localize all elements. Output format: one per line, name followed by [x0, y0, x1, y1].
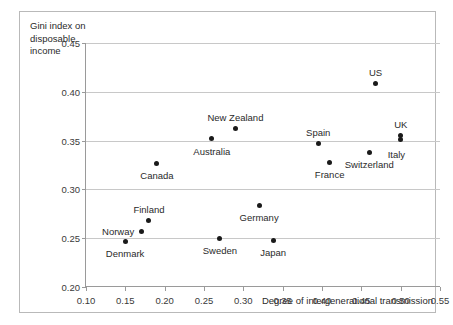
y-tick-label: 0.40: [62, 86, 81, 97]
data-point-label: Canada: [140, 171, 173, 181]
data-point: [233, 126, 238, 131]
x-axis-line: [85, 286, 440, 287]
y-tick-mark: [82, 189, 86, 190]
data-point: [154, 161, 159, 166]
y-tick-mark: [82, 238, 86, 239]
x-tick-label: 0.30: [234, 295, 253, 306]
x-tick-mark: [125, 287, 126, 291]
data-point: [373, 81, 378, 86]
data-point: [217, 236, 222, 241]
x-tick-label: 0.45: [352, 295, 371, 306]
x-tick-label: 0.35: [273, 295, 292, 306]
x-tick-label: 0.20: [155, 295, 174, 306]
data-point-label: Finland: [133, 205, 164, 215]
y-tick-label: 0.30: [62, 184, 81, 195]
x-tick-label: 0.50: [391, 295, 410, 306]
data-point: [316, 141, 321, 146]
gridline-horizontal: [86, 189, 440, 190]
data-point-label: France: [315, 170, 345, 180]
y-tick-mark: [82, 43, 86, 44]
x-tick-label: 0.15: [116, 295, 135, 306]
y-axis-line: [85, 43, 86, 287]
data-point-label: Australia: [193, 147, 230, 157]
x-tick-label: 0.40: [313, 295, 332, 306]
gridline-horizontal: [86, 238, 440, 239]
data-point-label: Denmark: [106, 249, 145, 259]
data-point-label: US: [369, 68, 382, 78]
x-tick-mark: [440, 287, 441, 291]
gridline-horizontal: [86, 92, 440, 93]
data-point-label: Germany: [240, 213, 279, 223]
figure-border: Gini index on disposable income Degree o…: [19, 11, 436, 313]
gridline-horizontal: [86, 141, 440, 142]
y-tick-label: 0.45: [62, 38, 81, 49]
y-tick-label: 0.20: [62, 282, 81, 293]
x-tick-mark: [86, 287, 87, 291]
x-tick-label: 0.25: [195, 295, 214, 306]
data-point: [146, 218, 151, 223]
data-point: [367, 150, 372, 155]
data-point-label: Italy: [388, 150, 405, 160]
x-tick-mark: [204, 287, 205, 291]
data-point: [271, 238, 276, 243]
scatter-plot-figure: Gini index on disposable income Degree o…: [0, 0, 453, 325]
data-point: [257, 203, 262, 208]
y-tick-label: 0.25: [62, 233, 81, 244]
data-point: [327, 160, 332, 165]
data-point: [139, 229, 144, 234]
data-point: [123, 239, 128, 244]
data-point-label: Switzerland: [345, 160, 394, 170]
plot-area: 0.200.250.300.350.400.45 0.100.150.200.2…: [86, 43, 440, 287]
x-tick-mark: [243, 287, 244, 291]
x-tick-label: 0.55: [431, 295, 450, 306]
gridline-horizontal: [86, 43, 440, 44]
x-tick-mark: [401, 287, 402, 291]
x-tick-mark: [283, 287, 284, 291]
data-point-label: Japan: [260, 248, 286, 258]
x-tick-mark: [361, 287, 362, 291]
x-tick-label: 0.10: [77, 295, 96, 306]
data-point-label: Norway: [102, 227, 134, 237]
data-point-label: UK: [394, 120, 407, 130]
data-point-label: New Zealand: [207, 113, 263, 123]
y-tick-label: 0.35: [62, 135, 81, 146]
y-tick-mark: [82, 141, 86, 142]
x-tick-mark: [322, 287, 323, 291]
data-point-label: Sweden: [203, 246, 237, 256]
y-tick-mark: [82, 92, 86, 93]
x-tick-mark: [165, 287, 166, 291]
data-point-label: Spain: [306, 128, 330, 138]
